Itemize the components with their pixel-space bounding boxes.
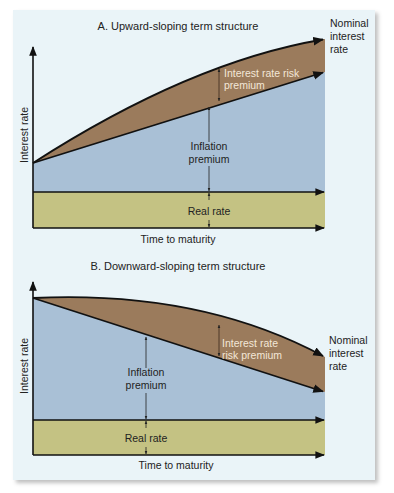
x-axis-label: Time to maturity [141, 233, 217, 245]
nominal-label-3: rate [329, 360, 347, 372]
x-axis-label: Time to maturity [139, 459, 215, 471]
risk-premium-label-1: Interest rate risk [224, 67, 300, 79]
panel-a: A. Upward-sloping term structure Interes… [18, 17, 369, 245]
real-rate-band [33, 420, 325, 455]
panel-a-title: A. Upward-sloping term structure [98, 20, 259, 32]
inflation-label-2: premium [126, 379, 167, 391]
y-axis-label: Interest rate [18, 338, 30, 394]
risk-premium-label-2: premium [224, 79, 265, 91]
panel-b: B. Downward-sloping term structure Inter… [18, 260, 368, 471]
real-rate-label: Real rate [125, 432, 168, 444]
term-structure-diagram: A. Upward-sloping term structure Interes… [0, 0, 394, 493]
inflation-label-1: Inflation [128, 366, 165, 378]
risk-premium-label-2: risk premium [222, 349, 282, 361]
nominal-label-1: Nominal [329, 334, 368, 346]
nominal-label-3: rate [330, 43, 348, 55]
inflation-label-2: premium [189, 153, 230, 165]
real-rate-label: Real rate [188, 205, 231, 217]
risk-premium-label-1: Interest rate [222, 337, 278, 349]
nominal-label-2: interest [330, 30, 365, 42]
nominal-label-1: Nominal [330, 17, 369, 29]
y-axis-label: Interest rate [18, 107, 30, 163]
real-rate-band [33, 192, 325, 228]
inflation-label-1: Inflation [191, 140, 228, 152]
nominal-label-2: interest [329, 347, 364, 359]
panel-b-title: B. Downward-sloping term structure [91, 260, 266, 272]
